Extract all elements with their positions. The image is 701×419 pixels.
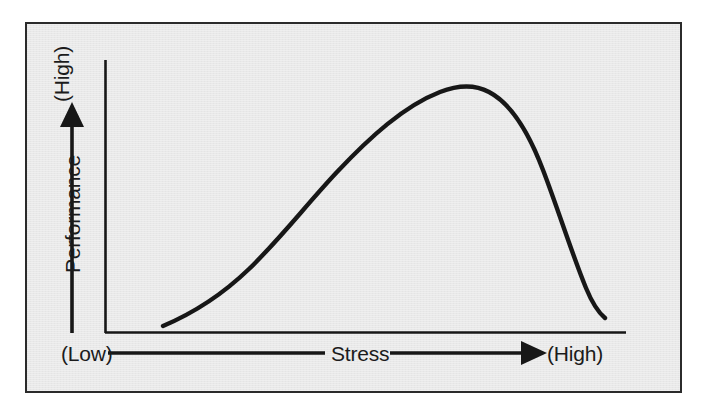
x-axis-low-label: (Low) xyxy=(61,343,113,364)
y-axis-high-label: (High) xyxy=(51,46,72,102)
y-axis-title: Performance xyxy=(62,155,83,273)
x-axis-high-label: (High) xyxy=(547,343,603,364)
x-axis-title: Stress xyxy=(331,343,389,364)
figure-border-frame xyxy=(25,22,682,393)
figure-root: (High) Performance (Low) Stress (High) xyxy=(0,0,701,419)
paper-scan-texture xyxy=(27,24,680,391)
